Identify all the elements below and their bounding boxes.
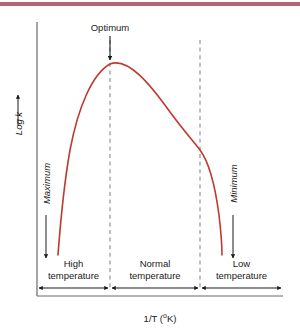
annotation-label-maximum: Maximum <box>41 156 52 212</box>
zone-label-normal-temperature-line1: Normal <box>110 258 200 270</box>
zone-label-high-temperature-line2: temperature <box>37 270 110 282</box>
annotation-label-minimum: Minimum <box>228 156 239 212</box>
zone-label-normal-temperature: Normal temperature <box>110 258 200 281</box>
zone-label-high-temperature: High temperature <box>37 258 110 281</box>
annotation-label-optimum: Optimum <box>0 22 220 33</box>
chart-figure: Optimum Log k Maximum Minimum High tempe… <box>0 0 300 333</box>
x-axis-title-prefix: 1/T ( <box>144 313 163 324</box>
zone-label-normal-temperature-line2: temperature <box>110 270 200 282</box>
zone-label-low-temperature-line2: temperature <box>200 270 283 282</box>
y-axis-title: Log k <box>13 94 24 154</box>
zone-label-high-temperature-line1: High <box>37 258 110 270</box>
zone-label-low-temperature-line1: Low <box>200 258 283 270</box>
x-axis-title: 1/T (oK) <box>37 310 283 324</box>
zone-label-low-temperature: Low temperature <box>200 258 283 281</box>
x-axis-title-suffix: K) <box>167 313 177 324</box>
data-curve <box>58 63 222 255</box>
